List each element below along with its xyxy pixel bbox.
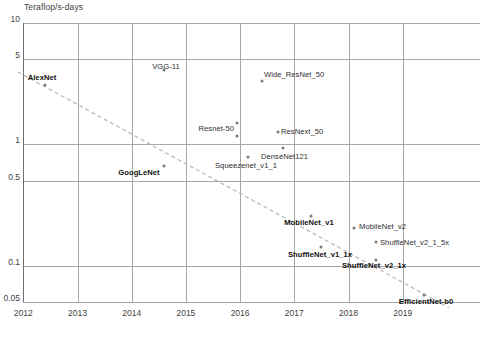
data-point-shufflenet-v1-1x[interactable] <box>320 246 323 249</box>
point-label-wide-resnet-50: Wide_ResNet_50 <box>264 70 324 79</box>
trendline <box>0 0 480 347</box>
point-label-densenet121: DenseNet121 <box>261 152 308 161</box>
point-label-shufflenet-v1-1x: ShuffleNet_v1_1x <box>288 250 352 259</box>
point-label-alexnet: AlexNet <box>28 73 57 82</box>
point-label-mobilenet-v1: MobileNet_v1 <box>284 218 334 227</box>
point-label-vgg-11: VGG-11 <box>152 62 180 71</box>
data-point-resnet-50[interactable] <box>236 121 239 124</box>
point-label-mobilenet-v2: MobileNet_v2 <box>359 222 406 231</box>
data-point-googlenet[interactable] <box>163 165 166 168</box>
point-label-resnext-50: ResNext_50 <box>281 127 323 136</box>
data-point-wide-resnet-50[interactable] <box>260 80 263 83</box>
data-point-squeezenet-v1-1[interactable] <box>247 156 250 159</box>
point-label-shufflenet-v2-1-5x: ShuffleNet_v2_1_5x <box>380 238 449 247</box>
point-label-googlenet: GoogLeNet <box>118 168 159 177</box>
scatter-chart: Teraflop/s-days 10510.50.10.05 201220132… <box>0 0 480 347</box>
data-point-resnext-50[interactable] <box>277 131 280 134</box>
point-label-shufflenet-v2-1x: ShuffleNet_v2_1x <box>342 261 406 270</box>
data-point-mobilenet-v2[interactable] <box>352 226 355 229</box>
data-point-shufflenet-v2-1-5x[interactable] <box>374 241 377 244</box>
data-point-resnet-50-secondary[interactable] <box>236 134 239 137</box>
point-label-efficientnet-b0: EfficientNet-b0 <box>399 297 453 306</box>
point-label-resnet-50: Resnet-50 <box>199 124 235 133</box>
data-point-alexnet[interactable] <box>43 83 46 86</box>
data-point-densenet121[interactable] <box>282 147 285 150</box>
point-label-squeezenet-v1-1: Squeezenet_v1_1 <box>215 161 277 170</box>
